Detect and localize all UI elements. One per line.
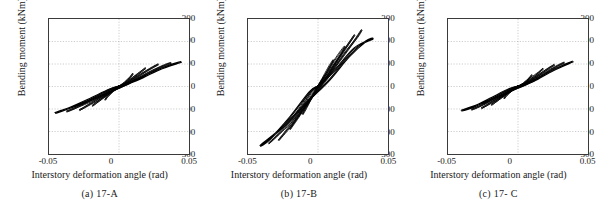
hysteresis-loop bbox=[461, 61, 572, 110]
x-axis-label: Interstory deformation angle (rad) bbox=[199, 170, 398, 180]
hysteresis-curves-17-b bbox=[260, 29, 373, 146]
y-axis-label: Bending moment (kNm) bbox=[416, 0, 426, 112]
x-tick-0: 0 bbox=[500, 157, 520, 166]
panel-caption: (c) 17- C bbox=[399, 189, 598, 199]
panel-17-c: Bending moment (kNm) 300 200 100 0 -100 … bbox=[399, 0, 598, 207]
x-tick-neg005: -0.05 bbox=[229, 157, 265, 166]
x-axis-label: Interstory deformation angle (rad) bbox=[0, 170, 199, 180]
hysteresis-figure-row: Bending moment (kNm) 300 200 100 0 -100 … bbox=[0, 0, 598, 207]
x-tick-0: 0 bbox=[300, 157, 320, 166]
panel-17-b: Bending moment (kNm) 300 200 100 0 -100 … bbox=[199, 0, 398, 207]
hysteresis-curves-17-a bbox=[55, 62, 181, 114]
x-tick-0: 0 bbox=[101, 157, 121, 166]
x-tick-neg005: -0.05 bbox=[429, 157, 465, 166]
plot-svg-17-c bbox=[448, 19, 588, 154]
hysteresis-loop bbox=[260, 38, 373, 146]
x-tick-neg005: -0.05 bbox=[30, 157, 66, 166]
panel-caption: (a) 17-A bbox=[0, 189, 199, 199]
plot-area-17-c bbox=[447, 18, 589, 155]
x-tick-005: 0.05 bbox=[571, 157, 598, 166]
plot-svg-17-a bbox=[49, 19, 189, 154]
plot-area-17-a bbox=[48, 18, 190, 155]
y-axis-label: Bending moment (kNm) bbox=[17, 0, 27, 112]
hysteresis-curves-17-c bbox=[461, 61, 573, 111]
plot-svg-17-b bbox=[248, 19, 388, 154]
y-axis-label: Bending moment (kNm) bbox=[216, 0, 226, 112]
panel-17-a: Bending moment (kNm) 300 200 100 0 -100 … bbox=[0, 0, 199, 207]
panel-caption: (b) 17-B bbox=[199, 189, 398, 199]
x-axis-label: Interstory deformation angle (rad) bbox=[399, 170, 598, 180]
plot-area-17-b bbox=[247, 18, 389, 155]
